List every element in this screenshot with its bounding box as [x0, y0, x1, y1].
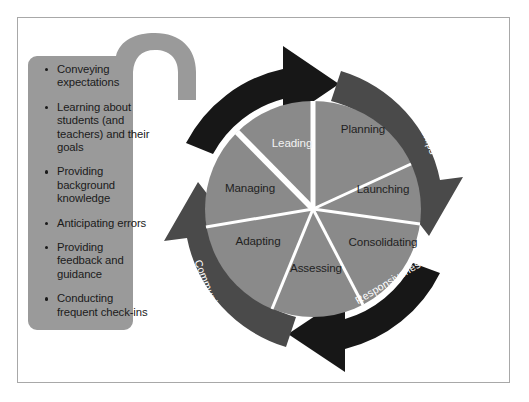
wheel-label-assessing: Assessing	[290, 261, 342, 274]
wheel-label-adapting: Adapting	[236, 234, 281, 247]
callout-bullet-item: Providing background knowledge	[42, 165, 150, 205]
wheel-label-leading: Leading	[272, 136, 313, 149]
wheel-label-planning: Planning	[341, 122, 385, 135]
wheel-label-managing: Managing	[225, 181, 275, 194]
callout-bullet-item: Anticipating errors	[42, 217, 150, 230]
figure-canvas: Conveying expectations Learning about st…	[0, 0, 529, 402]
wheel-label-consolidating: Consolidating	[349, 235, 418, 248]
callout-bullet-item: Providing feedback and guidance	[42, 241, 150, 281]
callout-bullet-list: Conveying expectations Learning about st…	[38, 56, 156, 326]
callout-bullet-item: Learning about students (and teachers) a…	[42, 101, 150, 155]
callout-bullet-item: Conducting frequent check-ins	[42, 292, 150, 319]
callout-bullet-item: Conveying expectations	[42, 63, 150, 90]
wheel-label-launching: Launching	[357, 182, 410, 195]
